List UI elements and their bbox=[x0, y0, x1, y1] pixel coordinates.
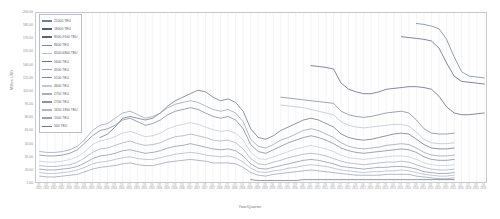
series-line bbox=[40, 123, 454, 166]
x-tick-label: Q12007 bbox=[186, 184, 193, 190]
x-tick-year: 2009 bbox=[269, 187, 276, 190]
x-tick-year: 2016 bbox=[465, 187, 472, 190]
x-tick-year: 2012 bbox=[337, 187, 344, 190]
x-tick-label: Q32014 bbox=[412, 184, 419, 190]
legend-item[interactable]: 6500-6800 TEU bbox=[42, 49, 78, 57]
x-tick-year: 2009 bbox=[261, 187, 268, 190]
legend-label: 1000 TEU bbox=[54, 116, 69, 120]
x-tick-year: 2007 bbox=[186, 187, 193, 190]
x-tick-label: Q32006 bbox=[171, 184, 178, 190]
x-tick-year: 2012 bbox=[344, 187, 351, 190]
x-tick-year: 2010 bbox=[299, 187, 306, 190]
legend-color-swatch bbox=[42, 28, 52, 30]
legend-color-swatch bbox=[42, 20, 52, 22]
series-line bbox=[40, 144, 454, 174]
x-tick-label: Q22003 bbox=[73, 184, 80, 190]
x-tick-label: Q22010 bbox=[284, 184, 291, 190]
series-line bbox=[40, 101, 454, 156]
y-tick-label: 50.00 bbox=[25, 142, 33, 146]
x-tick-label: Q32003 bbox=[80, 184, 87, 190]
x-tick-year: 2011 bbox=[329, 187, 336, 190]
x-tick-label: Q42004 bbox=[118, 184, 125, 190]
legend-label: 2750 TEU bbox=[54, 92, 69, 96]
legend-color-swatch bbox=[42, 45, 52, 47]
x-tick-label: Q42012 bbox=[359, 184, 366, 190]
x-tick-label: Q42009 bbox=[269, 184, 276, 190]
x-tick-label: Q42011 bbox=[329, 184, 336, 190]
x-tick-label: Q22004 bbox=[103, 184, 110, 190]
x-tick-label: Q32009 bbox=[261, 184, 268, 190]
x-tick-label: Q22013 bbox=[374, 184, 381, 190]
x-tick-year: 2005 bbox=[133, 187, 140, 190]
x-tick-label: Q32016 bbox=[472, 184, 479, 190]
x-tick-label: Q32015 bbox=[442, 184, 449, 190]
x-tick-year: 2003 bbox=[73, 187, 80, 190]
y-axis-tick-labels: 200.00185.00170.00155.00140.00125.00110.… bbox=[0, 12, 35, 183]
x-tick-label: Q32011 bbox=[322, 184, 329, 190]
x-tick-label: Q42006 bbox=[178, 184, 185, 190]
series-line bbox=[40, 108, 454, 161]
y-tick-label: 95.00 bbox=[25, 102, 33, 106]
y-tick-label: 20.00 bbox=[25, 168, 33, 172]
legend-item[interactable]: 8500-9100 TEU bbox=[42, 33, 78, 41]
x-tick-label: Q22016 bbox=[465, 184, 472, 190]
legend-label: 4500 TEU bbox=[54, 68, 69, 72]
x-tick-year: 2004 bbox=[118, 187, 125, 190]
x-tick-label: Q42013 bbox=[389, 184, 396, 190]
x-tick-year: 2002 bbox=[43, 187, 50, 190]
legend-item[interactable]: 4600 TEU bbox=[42, 82, 78, 90]
legend-label: 500 TEU bbox=[54, 124, 67, 128]
legend-item[interactable]: 8600 TEU bbox=[42, 41, 78, 49]
x-tick-year: 2002 bbox=[58, 187, 65, 190]
legend-item[interactable]: 1650-1850 TEU bbox=[42, 106, 78, 114]
series-line bbox=[281, 105, 454, 144]
x-tick-year: 2011 bbox=[314, 187, 321, 190]
legend-label: 5100 TEU bbox=[54, 76, 69, 80]
legend-item[interactable]: 18000 TEU bbox=[42, 25, 78, 33]
legend-item[interactable]: 5600 TEU bbox=[42, 57, 78, 65]
series-line bbox=[40, 134, 454, 170]
legend-item[interactable]: 4500 TEU bbox=[42, 66, 78, 74]
legend-item[interactable]: 5100 TEU bbox=[42, 74, 78, 82]
y-tick-label: 80.00 bbox=[25, 115, 33, 119]
x-tick-year: 2014 bbox=[404, 187, 411, 190]
x-tick-label: Q42007 bbox=[209, 184, 216, 190]
x-tick-year: 2008 bbox=[216, 187, 223, 190]
y-tick-label: 125.00 bbox=[23, 76, 33, 80]
x-tick-label: Q22009 bbox=[254, 184, 261, 190]
x-tick-label: Q12010 bbox=[276, 184, 283, 190]
x-tick-label: Q12016 bbox=[457, 184, 464, 190]
x-tick-year: 2011 bbox=[306, 187, 313, 190]
x-tick-year: 2009 bbox=[246, 187, 253, 190]
x-tick-year: 2005 bbox=[148, 187, 155, 190]
legend-item[interactable]: 1000 TEU bbox=[42, 114, 78, 122]
y-tick-label: 110.00 bbox=[23, 89, 33, 93]
x-tick-label: Q22015 bbox=[435, 184, 442, 190]
x-tick-label: Q22006 bbox=[163, 184, 170, 190]
x-tick-label: Q42014 bbox=[419, 184, 426, 190]
x-tick-label: Q32002 bbox=[50, 184, 57, 190]
y-tick-label: 170.00 bbox=[23, 36, 33, 40]
x-tick-label: Q42002 bbox=[58, 184, 65, 190]
legend-item[interactable]: 2700 TEU bbox=[42, 98, 78, 106]
x-tick-year: 2012 bbox=[352, 187, 359, 190]
x-tick-year: 2005 bbox=[141, 187, 148, 190]
x-tick-year: 2015 bbox=[442, 187, 449, 190]
x-tick-label: Q32010 bbox=[291, 184, 298, 190]
x-tick-year: 2016 bbox=[457, 187, 464, 190]
x-tick-year: 2002 bbox=[35, 187, 42, 190]
legend-item[interactable]: 21000 TEU bbox=[42, 17, 78, 25]
x-tick-label: Q22002 bbox=[43, 184, 50, 190]
chart-legend: 21000 TEU18000 TEU8500-9100 TEU8600 TEU6… bbox=[39, 14, 82, 133]
legend-item[interactable]: 500 TEU bbox=[42, 122, 78, 130]
legend-label: 2700 TEU bbox=[54, 100, 69, 104]
x-tick-year: 2015 bbox=[427, 187, 434, 190]
x-tick-year: 2006 bbox=[178, 187, 185, 190]
x-axis-title: Year/Quarter bbox=[0, 205, 500, 209]
x-tick-year: 2006 bbox=[163, 187, 170, 190]
legend-item[interactable]: 2750 TEU bbox=[42, 90, 78, 98]
plot-area bbox=[35, 12, 487, 183]
x-tick-year: 2003 bbox=[88, 187, 95, 190]
x-tick-label: Q42015 bbox=[450, 184, 457, 190]
y-tick-label: 5.00 bbox=[27, 181, 33, 185]
